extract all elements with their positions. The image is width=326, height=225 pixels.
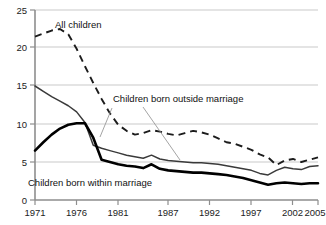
x-tick-label-1987: 1987 (157, 207, 178, 218)
chart-container: 25 20 15 10 5 0 1971 1976 1981 1987 1992… (0, 0, 326, 225)
y-tick-label-10: 10 (16, 119, 27, 130)
y-tick-label-20: 20 (16, 42, 27, 53)
line-chart: 25 20 15 10 5 0 1971 1976 1981 1987 1992… (0, 0, 326, 225)
y-tick-label-5: 5 (22, 157, 27, 168)
series-line-children-within-marriage (35, 123, 318, 185)
x-tick-label-1981: 1981 (107, 207, 128, 218)
y-tick-label-25: 25 (16, 5, 27, 16)
leader-line-outside-marriage (100, 108, 112, 137)
annotation-all-children: All children (55, 19, 101, 30)
leader-line-outside-marriage-2 (143, 107, 180, 160)
y-tick-label-0: 0 (22, 195, 27, 206)
x-tick-label-1976: 1976 (66, 207, 87, 218)
y-tick-label-15: 15 (16, 80, 27, 91)
gridlines (35, 10, 318, 162)
x-tick-label-1992: 1992 (199, 207, 220, 218)
annotation-children-outside-marriage: Children born outside marriage (113, 93, 243, 104)
x-tick-label-1971: 1971 (24, 207, 45, 218)
x-tick-label-2002: 2002 (282, 207, 303, 218)
annotation-children-within-marriage: Children born within marriage (28, 177, 152, 188)
x-tick-label-2005: 2005 (304, 207, 325, 218)
x-tick-label-1997: 1997 (240, 207, 261, 218)
